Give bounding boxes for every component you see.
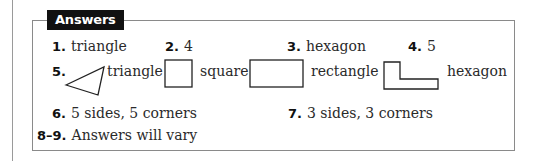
answer-7: 7.3 sides, 3 corners bbox=[288, 105, 433, 122]
answer-text: 5 sides, 5 corners bbox=[71, 105, 197, 121]
triangle-icon bbox=[63, 64, 107, 98]
answer-number: 2. bbox=[165, 39, 179, 54]
square-icon bbox=[164, 59, 194, 89]
answer-text: 4 bbox=[184, 38, 193, 54]
answer-8-9: 8–9.Answers will vary bbox=[37, 127, 197, 144]
answer-4: 4.5 bbox=[408, 38, 436, 55]
answer-text: Answers will vary bbox=[72, 127, 198, 143]
answer-6: 6.5 sides, 5 corners bbox=[52, 105, 197, 122]
shape-label-hexagon: hexagon bbox=[447, 63, 507, 79]
page-margin-line bbox=[12, 0, 13, 161]
answer-number: 7. bbox=[288, 106, 302, 121]
answer-1: 1.triangle bbox=[52, 38, 127, 55]
l-hexagon-icon bbox=[383, 61, 441, 91]
answer-number: 8–9. bbox=[37, 128, 67, 143]
answer-2: 2.4 bbox=[165, 38, 193, 55]
answer-text: triangle bbox=[71, 38, 127, 54]
shape-label-rectangle: rectangle bbox=[311, 63, 379, 79]
answer-3: 3.hexagon bbox=[287, 38, 366, 55]
answer-number: 4. bbox=[408, 39, 422, 54]
answer-text: hexagon bbox=[306, 38, 366, 54]
answer-number: 6. bbox=[52, 106, 66, 121]
shape-label-square: square bbox=[200, 63, 249, 79]
answer-number: 3. bbox=[287, 39, 301, 54]
answer-text: 5 bbox=[427, 38, 436, 54]
shape-label-triangle: triangle bbox=[107, 63, 163, 79]
answers-header-label: Answers bbox=[47, 10, 124, 30]
answer-number: 1. bbox=[52, 39, 66, 54]
answer-text: 3 sides, 3 corners bbox=[307, 105, 433, 121]
rectangle-icon bbox=[249, 59, 305, 89]
